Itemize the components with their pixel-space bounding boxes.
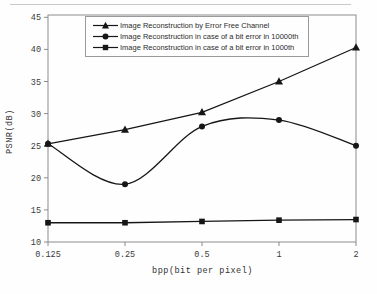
legend: Image Reconstruction by Error Free Chann… xyxy=(85,16,309,57)
data-point-square xyxy=(276,217,282,223)
x-tick-label: 0.5 xyxy=(194,250,209,260)
data-point-triangle xyxy=(352,43,360,50)
data-point-circle xyxy=(45,141,51,147)
figure: 10152025303540450.1250.250.512 PSNR(dB) … xyxy=(0,0,377,294)
y-tick-label: 45 xyxy=(31,13,41,23)
y-tick-label: 25 xyxy=(31,142,41,152)
x-tick-label: 0.25 xyxy=(115,250,135,260)
data-point-square xyxy=(353,217,359,223)
data-point-square xyxy=(122,220,128,226)
legend-label: Image Reconstruction in case of a bit er… xyxy=(120,43,294,52)
legend-item: Image Reconstruction by Error Free Chann… xyxy=(93,20,306,31)
data-point-circle xyxy=(353,143,359,149)
legend-item: Image Reconstruction in case of a bit er… xyxy=(93,42,306,53)
data-point-circle xyxy=(199,123,205,129)
x-axis-label: bpp(bit per pixel) xyxy=(115,266,290,276)
y-tick-label: 20 xyxy=(31,174,41,184)
y-tick-label: 10 xyxy=(31,238,41,248)
y-tick-label: 35 xyxy=(31,78,41,88)
triangle-marker-icon xyxy=(93,21,118,30)
legend-label: Image Reconstruction by Error Free Chann… xyxy=(120,21,269,30)
y-tick-label: 30 xyxy=(31,110,41,120)
data-point-square xyxy=(199,219,205,225)
data-point-circle xyxy=(122,181,128,187)
data-point-circle xyxy=(276,117,282,123)
x-tick-label: 0.125 xyxy=(35,250,61,260)
y-axis-label: PSNR(dB) xyxy=(5,101,15,163)
x-tick-label: 1 xyxy=(276,250,281,260)
data-point-square xyxy=(45,220,51,226)
square-marker-icon xyxy=(93,43,118,52)
legend-item: Image Reconstruction in case of a bit er… xyxy=(93,31,306,42)
legend-label: Image Reconstruction in case of a bit er… xyxy=(120,32,298,41)
circle-marker-icon xyxy=(93,32,118,41)
x-tick-label: 2 xyxy=(353,250,358,260)
y-tick-label: 40 xyxy=(31,45,41,55)
y-tick-label: 15 xyxy=(31,206,41,216)
